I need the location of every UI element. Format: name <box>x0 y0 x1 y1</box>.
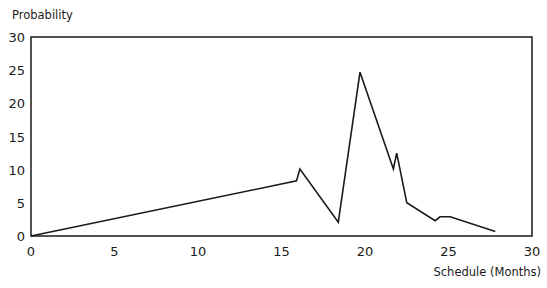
probability-line-chart: Probability 051015202530 051015202530 Sc… <box>0 0 547 288</box>
x-tick-label: 10 <box>190 244 207 259</box>
x-axis-tick-labels: 051015202530 <box>27 244 540 259</box>
y-tick-label: 20 <box>8 96 25 111</box>
x-tick-label: 15 <box>273 244 290 259</box>
y-tick-label: 15 <box>8 130 25 145</box>
x-tick-label: 5 <box>110 244 118 259</box>
y-tick-label: 30 <box>8 30 25 45</box>
x-tick-label: 20 <box>357 244 374 259</box>
x-tick-label: 0 <box>27 244 35 259</box>
y-tick-label: 0 <box>17 229 25 244</box>
plot-frame <box>31 37 532 236</box>
x-tick-label: 25 <box>440 244 457 259</box>
y-tick-label: 25 <box>8 63 25 78</box>
y-axis-title: Probability <box>12 8 73 22</box>
x-axis-title: Schedule (Months) <box>433 265 541 279</box>
y-axis-tick-labels: 051015202530 <box>8 30 25 244</box>
x-tick-label: 30 <box>524 244 541 259</box>
y-tick-label: 10 <box>8 163 25 178</box>
y-tick-label: 5 <box>17 196 25 211</box>
probability-series-line <box>31 72 495 236</box>
